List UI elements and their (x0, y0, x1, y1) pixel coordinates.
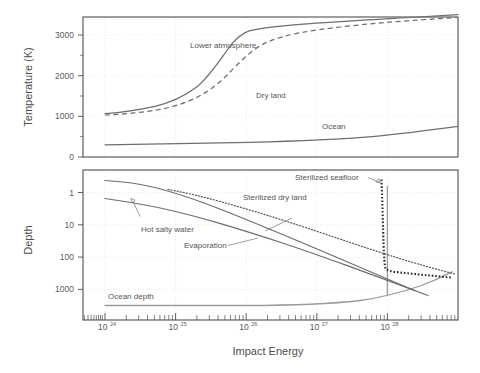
temperature-ytick-1000: 1000 (55, 111, 74, 121)
depth-ytick-10: 10 (65, 220, 75, 230)
xtick-label-0: 10 (98, 322, 108, 332)
xtick-label-2: 10 (239, 322, 249, 332)
annotation-sterilized-seafloor: Sterilized seafloor (295, 173, 359, 182)
xtick-label-1: 10 (169, 322, 179, 332)
temperature-axis-label: Temperature (K) (22, 47, 34, 126)
xtick-label-4: 10 (380, 322, 390, 332)
annotation-sterilized-dry-land: Sterilized dry land (243, 193, 307, 202)
xtick-exp-2: 26 (251, 321, 257, 327)
depth-ytick-1000: 1000 (55, 284, 74, 294)
temperature-ytick-3000: 3000 (55, 30, 74, 40)
annotation-lower-atmosphere: Lower atmosphere (190, 41, 257, 50)
xtick-exp-4: 28 (392, 321, 398, 327)
annotation-hot-salty-water: Hot salty water (141, 225, 194, 234)
xaxis-label: Impact Energy (233, 345, 304, 357)
figure-background (0, 0, 480, 373)
depth-axis-label: Depth (22, 225, 34, 254)
annotation-dry-land: Dry land (256, 91, 286, 100)
temperature-ytick-0: 0 (69, 152, 74, 162)
xtick-exp-3: 27 (322, 321, 328, 327)
xtick-exp-1: 25 (181, 321, 187, 327)
xtick-exp-0: 24 (110, 321, 116, 327)
temperature-ytick-2000: 2000 (55, 71, 74, 81)
annotation-ocean-depth: Ocean depth (108, 292, 154, 301)
depth-ytick-100: 100 (60, 252, 74, 262)
depth-ytick-1: 1 (69, 188, 74, 198)
figure-container: 0 1000 2000 3000 Temperature (K) Lower a… (0, 0, 480, 373)
annotation-ocean: Ocean (322, 122, 346, 131)
annotation-evaporation: Evaporation (184, 241, 227, 250)
impact-energy-figure: 0 1000 2000 3000 Temperature (K) Lower a… (0, 0, 480, 373)
xtick-label-3: 10 (310, 322, 320, 332)
